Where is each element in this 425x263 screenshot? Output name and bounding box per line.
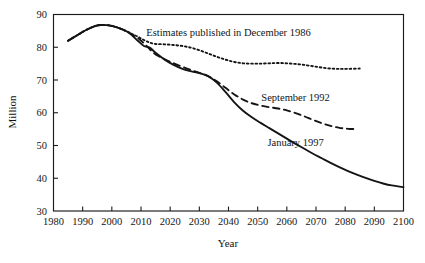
x-tick-label: 2070 [306, 216, 327, 227]
x-tick-label: 2090 [364, 216, 385, 227]
chart-figure: 30405060708090 1980199020002010202020302… [0, 0, 425, 263]
x-axis-title: Year [218, 237, 239, 249]
x-tick-label: 2060 [276, 216, 297, 227]
x-tick-label: 2000 [101, 216, 122, 227]
x-tick-label: 2030 [189, 216, 210, 227]
y-tick-label: 90 [37, 9, 48, 20]
series-label-1: Estimates published in December 1986 [146, 27, 310, 38]
y-axis-title: Million [6, 95, 18, 129]
series-label-2: September 1992 [261, 92, 330, 103]
y-tick-label: 60 [37, 107, 48, 118]
y-tick-label: 40 [37, 173, 48, 184]
y-tick-label: 70 [37, 75, 48, 86]
x-tick-label: 1990 [72, 216, 93, 227]
x-tick-label: 2080 [335, 216, 356, 227]
x-tick-label: 2050 [247, 216, 268, 227]
y-tick-label: 50 [37, 140, 48, 151]
population-projection-line-chart: 30405060708090 1980199020002010202020302… [0, 0, 425, 263]
x-tick-label: 2040 [218, 216, 239, 227]
y-tick-label: 80 [37, 42, 48, 53]
x-tick-label: 1980 [43, 216, 64, 227]
x-tick-label: 2100 [393, 216, 414, 227]
series-label-3: January 1997 [267, 137, 323, 148]
x-tick-label: 2020 [160, 216, 181, 227]
x-tick-label: 2010 [131, 216, 152, 227]
